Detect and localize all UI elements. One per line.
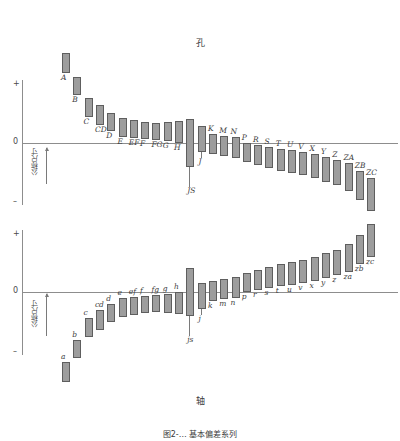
tolerance-bar-label: M bbox=[219, 127, 227, 135]
tolerance-bar bbox=[299, 260, 307, 283]
tolerance-bar bbox=[209, 134, 217, 154]
tolerance-bar bbox=[299, 152, 307, 175]
tolerance-bar bbox=[322, 253, 330, 278]
tolerance-bar-label: b bbox=[72, 331, 77, 339]
tolerance-bar bbox=[311, 154, 319, 178]
tolerance-bar-label: F bbox=[140, 140, 145, 148]
tolerance-bar bbox=[356, 171, 364, 200]
tolerance-bar bbox=[277, 264, 285, 286]
hole-axis-plus-label: + bbox=[13, 80, 20, 88]
figure-caption: 图2-… 基本偏差系列 bbox=[0, 428, 400, 439]
tolerance-bar-label: js bbox=[187, 336, 193, 344]
tolerance-bar-label: za bbox=[344, 273, 352, 281]
tolerance-bar-label: t bbox=[276, 287, 279, 295]
tolerance-bar-label: r bbox=[253, 291, 257, 299]
tolerance-bar bbox=[209, 281, 217, 301]
tolerance-bar bbox=[356, 235, 364, 264]
tolerance-bar bbox=[243, 273, 251, 292]
tolerance-bar bbox=[345, 163, 353, 191]
tolerance-bar-label: e bbox=[118, 289, 122, 297]
tolerance-bar bbox=[288, 262, 296, 285]
tolerance-bar-label: zc bbox=[366, 258, 374, 266]
tolerance-bar bbox=[141, 122, 149, 139]
tolerance-bar bbox=[175, 292, 183, 314]
hole-axis-minus-label: – bbox=[13, 198, 17, 206]
tolerance-bar bbox=[232, 137, 240, 157]
tolerance-bar bbox=[107, 113, 115, 131]
tolerance-bar-label: y bbox=[321, 279, 325, 287]
tolerance-bar bbox=[232, 277, 240, 297]
tolerance-bar bbox=[198, 126, 206, 152]
tolerance-bar-label: k bbox=[208, 302, 213, 310]
tolerance-bar bbox=[367, 224, 375, 257]
tolerance-bar-label: FG bbox=[151, 141, 162, 149]
tolerance-bar-label: D bbox=[106, 132, 112, 140]
tolerance-bar bbox=[254, 270, 262, 290]
tolerance-bar bbox=[96, 105, 104, 124]
shaft-chart-title: 轴 bbox=[196, 394, 205, 407]
tolerance-bar-label: x bbox=[310, 282, 314, 290]
tolerance-bar bbox=[164, 122, 172, 141]
tolerance-bar-label: P bbox=[242, 134, 247, 142]
hole-vertical-axis bbox=[22, 80, 23, 205]
tolerance-bar-label: Z bbox=[332, 151, 337, 159]
tolerance-bar-label: s bbox=[264, 289, 268, 297]
tolerance-bar-label: EF bbox=[129, 139, 140, 147]
tolerance-bar bbox=[141, 296, 149, 313]
tolerance-bar-label: cd bbox=[95, 301, 104, 309]
shaft-axis-plus-label: + bbox=[13, 230, 20, 238]
tolerance-bar bbox=[345, 244, 353, 272]
tolerance-bar bbox=[277, 149, 285, 171]
tolerance-bar bbox=[130, 297, 138, 315]
tolerance-bar-label: B bbox=[72, 96, 78, 104]
tolerance-bar bbox=[62, 362, 70, 382]
tolerance-bar bbox=[198, 283, 206, 309]
tolerance-bar bbox=[288, 150, 296, 173]
tolerance-bar-label: Y bbox=[321, 148, 326, 156]
hole-axis-zero-label: 0 bbox=[13, 138, 18, 146]
hole-nominal-size-label: 公称尺寸 bbox=[30, 148, 40, 176]
tolerance-bar-label: m bbox=[219, 300, 226, 308]
shaft-vertical-axis bbox=[22, 230, 23, 355]
tolerance-bar-label: N bbox=[231, 128, 238, 136]
tolerance-bar-label: d bbox=[106, 295, 111, 303]
tolerance-bar bbox=[265, 267, 273, 288]
tolerance-bar bbox=[333, 250, 341, 276]
tolerance-bar bbox=[119, 298, 127, 316]
tolerance-bar-label: g bbox=[163, 285, 168, 293]
tolerance-bar bbox=[220, 279, 228, 299]
shaft-axis-zero-label: 0 bbox=[13, 287, 18, 295]
tolerance-bar-label: K bbox=[208, 125, 214, 133]
shaft-plot-area: + 0 – 公称尺寸 轴 abccddeefffgghjsjkmnprstuvx… bbox=[0, 220, 400, 420]
tolerance-bar bbox=[85, 318, 93, 337]
tolerance-bar bbox=[333, 160, 341, 186]
tolerance-bar-label: J bbox=[199, 158, 202, 166]
tolerance-bar-label: S bbox=[264, 138, 269, 146]
shaft-nominal-size-label: 公称尺寸 bbox=[30, 300, 40, 328]
tolerance-bar-label: ZB bbox=[355, 162, 366, 170]
tolerance-bar-label: u bbox=[287, 286, 292, 294]
tolerance-bar-label: c bbox=[84, 309, 88, 317]
tolerance-bar-label: v bbox=[298, 284, 302, 292]
tolerance-bar-label: C bbox=[84, 118, 90, 126]
tolerance-bar bbox=[119, 118, 127, 136]
tolerance-bar bbox=[164, 294, 172, 313]
tolerance-bar bbox=[107, 304, 115, 322]
tolerance-bar-label: CD bbox=[95, 126, 107, 134]
tolerance-bar bbox=[175, 121, 183, 143]
hole-tolerance-chart: + 0 – 公称尺寸 孔 ABCCDDEEFFFGGHJSJKMNPRSTUVX… bbox=[0, 0, 400, 220]
label-leader-line bbox=[189, 167, 190, 187]
hole-plot-area: + 0 – 公称尺寸 孔 ABCCDDEEFFFGGHJSJKMNPRSTUVX… bbox=[0, 0, 400, 220]
tolerance-bar bbox=[265, 147, 273, 168]
tolerance-bar bbox=[322, 157, 330, 182]
tolerance-bar bbox=[73, 77, 81, 95]
tolerance-bar-label: G bbox=[163, 142, 169, 150]
tolerance-bar-label: R bbox=[253, 136, 259, 144]
tolerance-bar-label: U bbox=[287, 141, 293, 149]
tolerance-bar bbox=[243, 143, 251, 162]
tolerance-bar bbox=[367, 178, 375, 211]
tolerance-bar-label: a bbox=[61, 353, 65, 361]
tolerance-bar-label: fg bbox=[151, 286, 159, 294]
tolerance-bar bbox=[311, 257, 319, 281]
tolerance-bar bbox=[186, 119, 194, 167]
